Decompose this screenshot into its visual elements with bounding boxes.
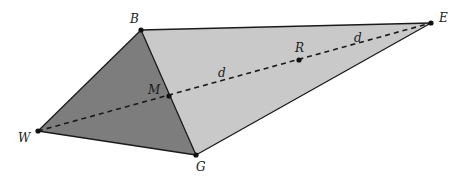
geometry-diagram: B E W G M R d d (0, 0, 461, 180)
point-m (166, 93, 171, 98)
point-w (35, 128, 40, 133)
label-m: M (147, 83, 161, 97)
label-g: G (196, 160, 206, 174)
label-b: B (129, 12, 139, 26)
label-e: E (438, 11, 448, 25)
label-r: R (294, 41, 304, 55)
point-r (296, 57, 301, 62)
label-w: W (18, 131, 32, 145)
point-g (193, 152, 198, 157)
segment-label-d-re: d (354, 31, 362, 45)
point-e (428, 20, 433, 25)
point-b (138, 27, 143, 32)
segment-label-d-mr: d (218, 66, 226, 80)
